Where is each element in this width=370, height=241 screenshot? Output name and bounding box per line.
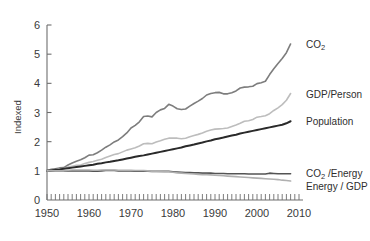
y-tick-label: 2 — [34, 136, 40, 148]
x-tick-label: 1950 — [35, 207, 59, 219]
series-label-gdp-person: GDP/Person — [306, 89, 362, 100]
indexed-line-chart: 0123456 1950196019701980199020002010 CO2… — [0, 0, 370, 241]
series-label-population: Population — [306, 116, 353, 127]
y-tick-label: 3 — [34, 107, 40, 119]
x-tick-label: 1990 — [203, 207, 227, 219]
x-tick-label: 1960 — [77, 207, 101, 219]
x-tick-label: 1980 — [161, 207, 185, 219]
y-axis-title: Indexed — [12, 100, 23, 134]
y-tick-label: 1 — [34, 165, 40, 177]
x-tick-label: 2000 — [245, 207, 269, 219]
x-tick-label: 2010 — [287, 207, 311, 219]
y-tick-label: 0 — [34, 194, 40, 206]
series-label-energy-gdp: Energy / GDP — [306, 181, 368, 192]
y-tick-label: 4 — [34, 77, 40, 89]
chart-canvas: 0123456 1950196019701980199020002010 CO2… — [0, 0, 370, 241]
x-tick-label: 1970 — [119, 207, 143, 219]
y-tick-label: 6 — [34, 19, 40, 31]
y-tick-label: 5 — [34, 48, 40, 60]
